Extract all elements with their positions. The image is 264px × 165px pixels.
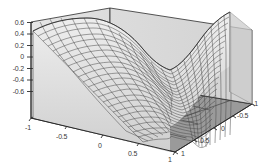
z-tick-label: -0.2 — [2, 65, 24, 72]
x-tick-label: 0.5 — [128, 150, 137, 157]
y-tick-label: -1 — [252, 100, 258, 107]
x-tick-label: -0.5 — [56, 133, 67, 140]
z-tick-label: -0.4 — [2, 76, 24, 83]
x-tick-label: 0 — [98, 142, 102, 149]
surface-plot-figure: 0.6 0.4 0.2 0 -0.2 -0.4 -0.6 -1 -0.5 0 0… — [0, 0, 264, 165]
x-tick-label: 1 — [168, 156, 172, 163]
y-tick-label: -0.5 — [237, 112, 248, 119]
z-tick-label: 0 — [2, 53, 24, 60]
x-tick-label: -1 — [25, 124, 31, 131]
y-tick-label: 0.5 — [200, 137, 209, 144]
y-tick-label: 1 — [181, 150, 185, 157]
surface-right-curtain — [230, 12, 252, 104]
z-tick-label: -0.6 — [2, 88, 24, 95]
z-tick-label: 0.4 — [2, 30, 24, 37]
z-tick-label: 0.2 — [2, 42, 24, 49]
z-tick-label: 0.6 — [2, 19, 24, 26]
surface-plot-canvas — [0, 0, 264, 165]
y-tick-label: 0 — [221, 125, 225, 132]
